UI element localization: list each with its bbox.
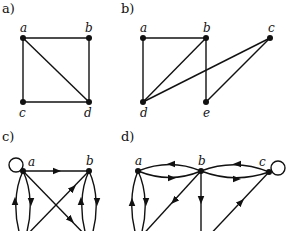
- node-label-a: a: [135, 154, 142, 168]
- node-c: [267, 35, 273, 41]
- panel-label-b: b): [121, 1, 134, 16]
- node-label-c: c: [268, 21, 275, 35]
- edge-b-c: [201, 171, 269, 178]
- edge-left-inner: [23, 171, 30, 231]
- node-label-a: a: [28, 155, 35, 169]
- node-label-d: d: [84, 106, 92, 120]
- panel-label-c: c): [2, 129, 14, 144]
- edge-a-b: [138, 171, 201, 178]
- node-label-a: a: [20, 21, 27, 35]
- node-a: [140, 35, 146, 41]
- panel-label-a: a): [2, 1, 15, 16]
- node-e: [203, 99, 209, 105]
- node-label-d: d: [140, 106, 148, 120]
- panel-b: b) a b c d e: [121, 1, 275, 120]
- node-label-c: c: [259, 155, 266, 169]
- node-label-b: b: [198, 154, 206, 168]
- arrow-c-b: [72, 188, 73, 189]
- arrow-a-d: [70, 219, 71, 220]
- panel-label-d: d): [121, 129, 134, 144]
- node-label-b: b: [85, 21, 93, 35]
- node-b: [86, 35, 92, 41]
- edge-b-a: [138, 165, 201, 172]
- node-b: [198, 168, 204, 174]
- node-a: [20, 168, 26, 174]
- node-c: [20, 99, 26, 105]
- panel-a: a) a b c d: [2, 1, 93, 120]
- node-d: [140, 99, 146, 105]
- node-b: [86, 168, 92, 174]
- self-loop-c: [271, 161, 285, 175]
- node-c: [266, 169, 272, 175]
- panel-d: d) a b c: [121, 129, 285, 231]
- edge-left-outer: [132, 171, 138, 231]
- edge-lower-b: [138, 171, 201, 231]
- edge-b-d: [143, 38, 206, 102]
- node-label-c: c: [19, 106, 26, 120]
- node-label-e: e: [203, 106, 210, 120]
- node-label-a: a: [140, 21, 147, 35]
- node-a: [135, 168, 141, 174]
- edge-right-inner: [82, 171, 89, 231]
- edge-a-d: [23, 38, 89, 102]
- node-d: [86, 99, 92, 105]
- node-b: [203, 35, 209, 41]
- edge-left-inner: [138, 171, 145, 231]
- node-label-b: b: [86, 154, 94, 168]
- edge-c-e: [206, 38, 270, 102]
- node-a: [20, 35, 26, 41]
- arrow-to-lower-left: [174, 200, 175, 201]
- arrow-to-c: [240, 202, 241, 203]
- graph-diagram: a) a b c d b) a b c d e c): [0, 0, 297, 231]
- panel-c: c) a b: [2, 129, 97, 231]
- edge-lower-c: [205, 172, 269, 231]
- edge-right-outer: [89, 171, 96, 231]
- edge-left-outer: [16, 171, 23, 231]
- node-label-b: b: [203, 21, 211, 35]
